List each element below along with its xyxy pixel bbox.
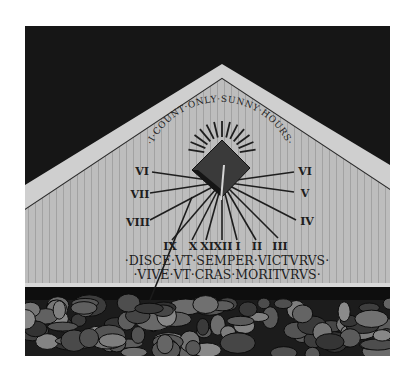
numeral-xi: XI xyxy=(200,240,214,253)
numeral-left-vi: VI xyxy=(134,165,149,178)
stone xyxy=(305,347,320,362)
stone xyxy=(274,299,292,309)
stone xyxy=(316,334,344,350)
stone xyxy=(135,303,163,313)
numeral-x: X xyxy=(189,240,198,253)
stone xyxy=(258,298,270,309)
numeral-left-viii: VIII xyxy=(125,216,150,229)
stone xyxy=(373,330,391,341)
base-trim xyxy=(25,283,390,287)
stone xyxy=(270,347,297,360)
numeral-right-vi: VI xyxy=(297,165,312,178)
stone xyxy=(227,316,254,325)
numeral-iii: III xyxy=(272,240,287,253)
stone xyxy=(99,334,126,348)
numeral-ii: II xyxy=(252,240,262,253)
numeral-ix: IX xyxy=(163,240,177,253)
numeral-right-v: V xyxy=(300,187,310,200)
sundial-photo: ·I·COUNT·ONLY·SUNNY·HOURS· VI VII VIII V… xyxy=(0,0,415,373)
numeral-left-vii: VII xyxy=(130,188,150,201)
stone xyxy=(186,341,201,356)
stone xyxy=(48,322,78,331)
inscription-line-1: ·DISCE·VT·SEMPER·VICTVRVS· xyxy=(125,253,329,268)
stone xyxy=(121,347,147,357)
stone xyxy=(292,305,312,323)
stone xyxy=(79,328,98,347)
stone xyxy=(355,310,388,327)
numeral-i: I xyxy=(235,240,240,253)
stone xyxy=(16,310,36,330)
stone xyxy=(197,319,209,336)
stone xyxy=(239,302,257,317)
stone xyxy=(220,333,255,354)
numeral-right-iv: IV xyxy=(300,215,314,228)
inscription-line-2: ·VIVE·VT·CRAS·MORITVRVS· xyxy=(133,267,320,282)
stone-wall xyxy=(15,294,403,362)
stone xyxy=(71,302,97,315)
stone xyxy=(193,296,219,314)
stone xyxy=(157,335,173,354)
stone xyxy=(383,298,396,309)
stone xyxy=(338,302,350,322)
stone xyxy=(53,301,65,319)
numeral-xii: XII xyxy=(214,240,233,253)
stone xyxy=(131,327,145,344)
